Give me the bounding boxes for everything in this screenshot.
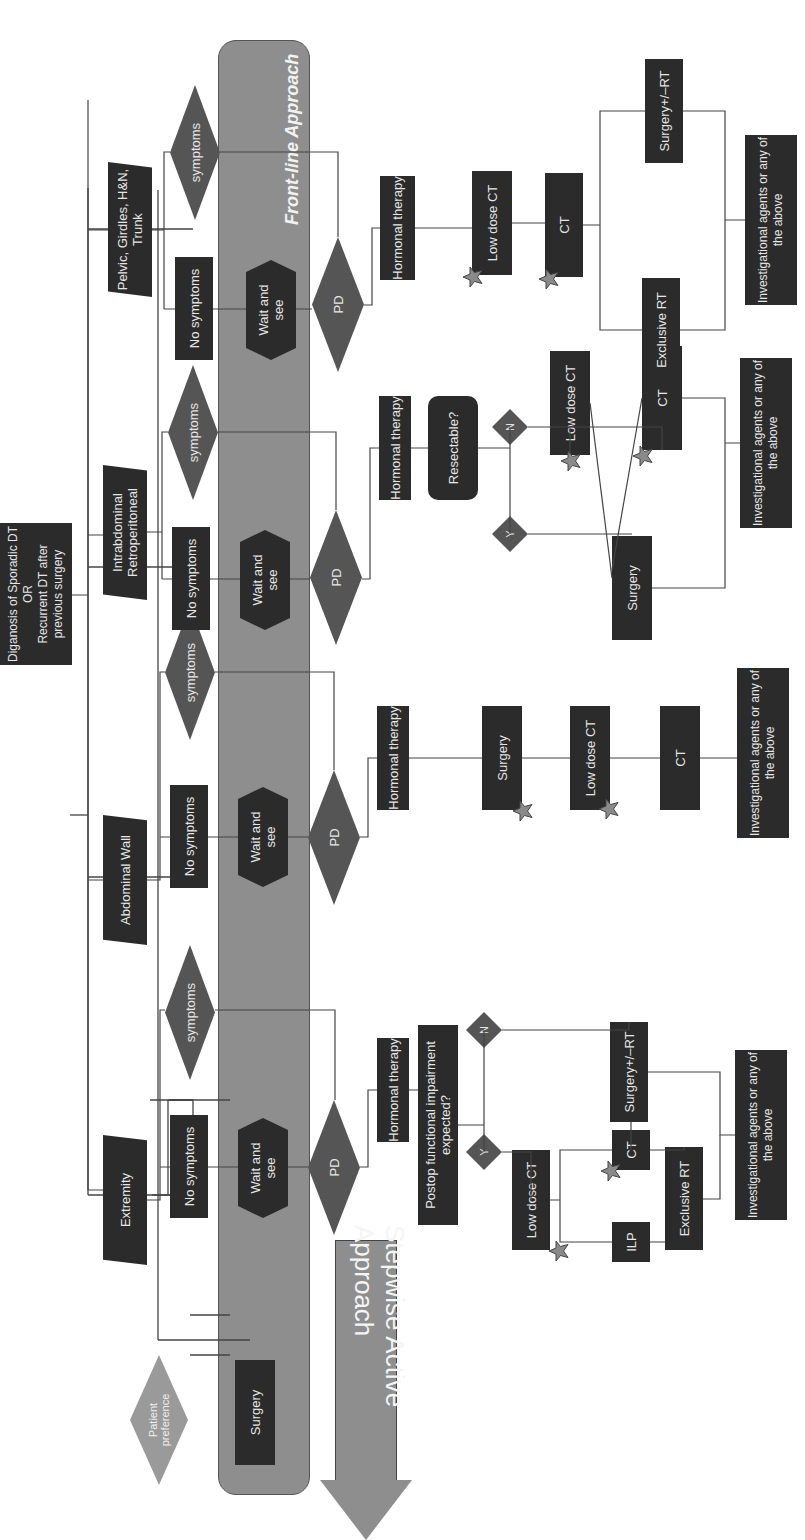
star-icon <box>598 798 620 820</box>
abdominal-surgery: Surgery <box>482 706 522 810</box>
site-extremity: Extremity <box>103 1135 147 1265</box>
intrabdominal-hormonal: Hormonal therapy <box>379 396 411 500</box>
extremity-surgery-rt: Surgery+/–RT <box>610 1022 648 1122</box>
star-icon <box>632 445 654 467</box>
abdominal-no-symptoms: No symptoms <box>170 785 208 888</box>
abdominal-wait-and-see: Wait and see <box>238 787 288 887</box>
site-pelvic-girdles: Pelvic, Girdles, H&N, Trunk <box>108 162 152 297</box>
intrabdominal-no-symptoms: No symptoms <box>172 527 210 630</box>
star-icon <box>512 800 534 822</box>
intrabdominal-resectable: Resectable? <box>428 396 478 500</box>
star-icon <box>462 266 484 288</box>
star-icon <box>548 1240 570 1262</box>
pelvic-wait-and-see: Wait and see <box>246 260 296 360</box>
stepwise-arrow-head <box>320 1480 412 1540</box>
diagnosis-box: Diganosis of Sporadic DT OR Recurrent DT… <box>0 523 72 665</box>
abdominal-ct: CT <box>660 706 700 810</box>
pelvic-exclusive-rt: Exclusive RT <box>642 278 680 382</box>
intrabdominal-surgery: Surgery <box>612 536 652 640</box>
pelvic-hormonal: Hormonal therapy <box>380 176 415 280</box>
star-icon <box>600 1160 622 1182</box>
extremity-wait-and-see: Wait and see <box>238 1118 288 1218</box>
intrabdominal-final: Investigational agents or any of the abo… <box>740 358 792 528</box>
extremity-question: Postop functional impairment expected? <box>418 1025 458 1225</box>
star-icon <box>538 268 560 290</box>
pelvic-no-symptoms: No symptoms <box>175 257 213 360</box>
pelvic-ct: CT <box>545 173 583 277</box>
site-intrabdominal: Intrabdominal Retroperitoneal <box>103 465 147 600</box>
extremity-ilp: ILP <box>612 1222 650 1262</box>
intrabdominal-wait-and-see: Wait and see <box>240 530 290 630</box>
pelvic-surgery-rt: Surgery+/–RT <box>645 59 683 163</box>
stepwise-active-label: Stepwise Active Approach <box>348 1225 410 1465</box>
extremity-hormonal: Hormonal therapy <box>377 1038 409 1142</box>
extremity-final: Investigational agents or any of the abo… <box>735 1050 787 1220</box>
site-abdominal-wall: Abdominal Wall <box>103 815 147 945</box>
abdominal-final: Investigational agents or any of the abo… <box>737 668 789 838</box>
front-line-surgery-box: Surgery <box>235 1360 275 1465</box>
extremity-exclusive-rt: Exclusive RT <box>665 1147 703 1250</box>
extremity-no-symptoms: No symptoms <box>170 1115 208 1218</box>
abdominal-hormonal: Hormonal therapy <box>377 706 409 810</box>
extremity-low-dose-ct: Low dose CT <box>512 1150 550 1250</box>
pelvic-final: Investigational agents or any of the abo… <box>745 135 797 305</box>
star-icon <box>560 450 582 472</box>
pelvic-low-dose-ct: Low dose CT <box>472 171 512 275</box>
intrabdominal-low-dose-ct: Low dose CT <box>550 351 590 455</box>
abdominal-low-dose-ct: Low dose CT <box>570 706 610 810</box>
